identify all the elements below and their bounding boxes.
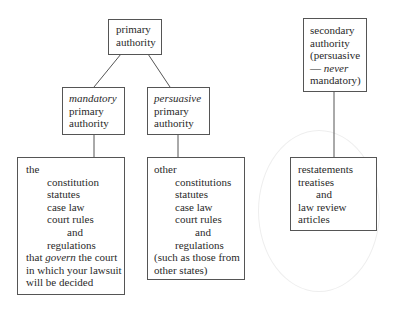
list-tail: will be decided — [26, 276, 124, 289]
list-item: case law — [26, 201, 124, 214]
list-item: case law — [154, 201, 244, 214]
list-item: statutes — [154, 188, 244, 201]
persuasive-primary-authority-node: persuasive primary authority — [147, 87, 210, 135]
secondary-sources-node: restatements treatises and law review ar… — [290, 157, 377, 231]
list-intro: the — [26, 163, 124, 176]
list-conjunction: and — [154, 226, 244, 239]
list-item: constitution — [26, 176, 124, 189]
node-emphasis: mandatory — [69, 92, 117, 104]
node-label: primary — [154, 105, 209, 118]
node-emphasis: persuasive — [154, 92, 201, 104]
list-item: law review — [298, 201, 376, 214]
node-label: secondary — [310, 24, 366, 37]
node-label: authority — [69, 117, 124, 130]
mandatory-primary-authority-node: mandatory primary authority — [62, 87, 125, 135]
secondary-authority-node: secondary authority (persuasive — never … — [303, 18, 367, 92]
list-item: court rules — [154, 213, 244, 226]
node-label: primary — [69, 105, 124, 118]
list-intro: other — [154, 163, 244, 176]
list-tail: that govern the court — [26, 251, 124, 264]
node-label: primary — [116, 23, 161, 36]
list-item: statutes — [26, 188, 124, 201]
node-label: authority — [116, 36, 161, 49]
list-tail: in which your lawsuit — [26, 264, 124, 277]
list-item: regulations — [26, 239, 124, 252]
node-label: authority — [154, 117, 209, 130]
node-label: — never — [310, 62, 366, 75]
list-item: regulations — [154, 239, 244, 252]
list-item: constitutions — [154, 176, 244, 189]
list-item: court rules — [26, 213, 124, 226]
node-label: (persuasive — [310, 49, 366, 62]
node-label: mandatory) — [310, 74, 366, 87]
list-item: articles — [298, 213, 376, 226]
list-conjunction: and — [26, 226, 124, 239]
primary-authority-node: primary authority — [108, 19, 162, 55]
list-item: treatises — [298, 176, 376, 189]
list-item: restatements — [298, 163, 376, 176]
mandatory-sources-node: the constitution statutes case law court… — [17, 157, 125, 295]
node-label: authority — [310, 37, 366, 50]
list-tail: (such as those from — [154, 251, 244, 264]
persuasive-sources-node: other constitutions statutes case law co… — [147, 157, 245, 280]
list-conjunction: and — [298, 188, 376, 201]
list-tail: other states) — [154, 264, 244, 277]
